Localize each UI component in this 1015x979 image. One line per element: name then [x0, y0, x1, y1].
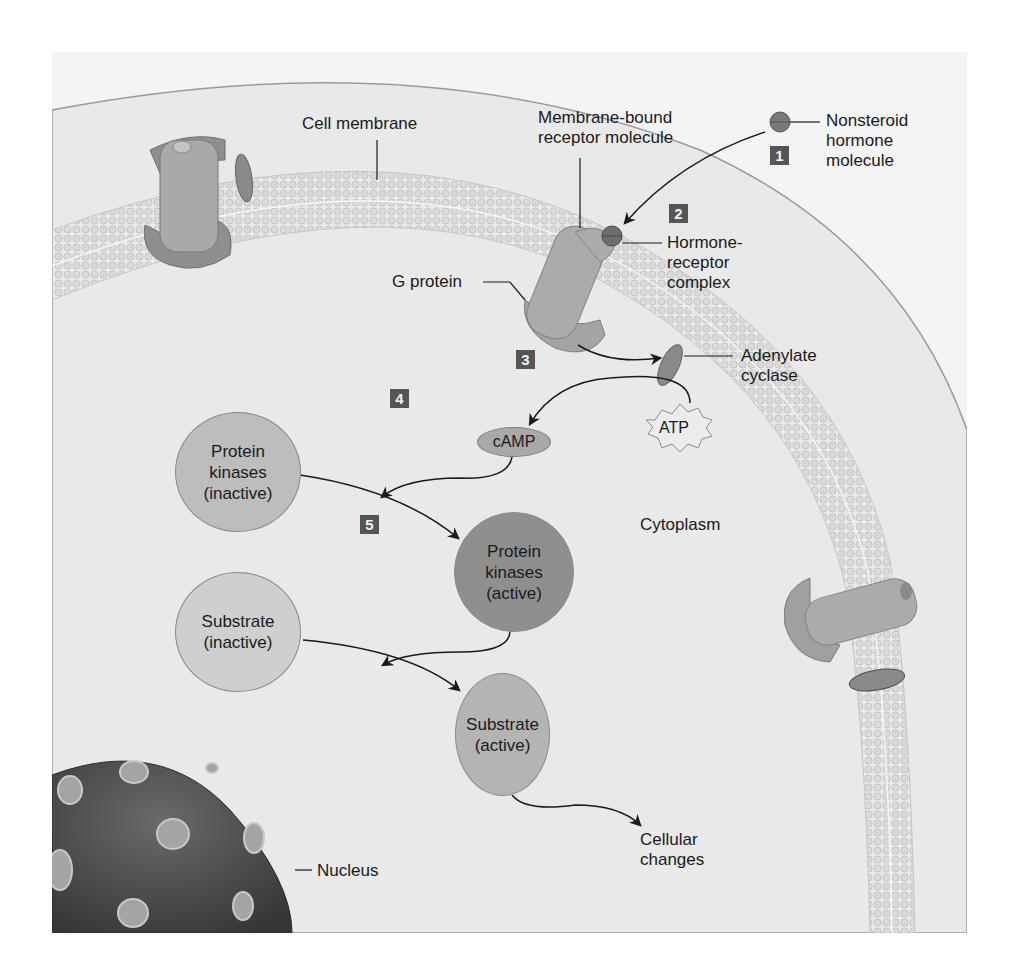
camp-node: cAMP	[477, 427, 551, 457]
node-label: Protein kinases (inactive)	[204, 441, 273, 504]
label-cell-membrane: Cell membrane	[302, 114, 417, 134]
diagram-canvas: Cell membrane Membrane-bound receptor mo…	[0, 0, 1015, 979]
label-nucleus: Nucleus	[317, 861, 378, 881]
node-substrate-inactive: Substrate (inactive)	[175, 572, 301, 692]
label-membrane-bound-receptor: Membrane-bound receptor molecule	[538, 108, 673, 148]
step-badge-5: 5	[360, 515, 379, 534]
node-protein-kinases-active: Protein kinases (active)	[454, 512, 574, 632]
camp-label: cAMP	[493, 433, 536, 451]
label-hormone-receptor-complex: Hormone- receptor complex	[667, 233, 743, 293]
step-badge-1: 1	[770, 146, 789, 165]
node-substrate-active: Substrate (active)	[455, 673, 550, 796]
label-atp: ATP	[659, 418, 689, 438]
node-label: Substrate (inactive)	[202, 611, 275, 653]
label-cellular-changes: Cellular changes	[640, 830, 704, 870]
label-cytoplasm: Cytoplasm	[640, 515, 720, 535]
label-adenylate-cyclase: Adenylate cyclase	[741, 346, 817, 386]
label-nonsteroid-hormone: Nonsteroid hormone molecule	[826, 111, 908, 171]
step-badge-4: 4	[390, 389, 409, 408]
label-g-protein: G protein	[392, 272, 462, 292]
node-protein-kinases-inactive: Protein kinases (inactive)	[175, 412, 301, 532]
node-label: Substrate (active)	[466, 714, 539, 756]
step-badge-3: 3	[516, 350, 535, 369]
step-badge-2: 2	[669, 204, 688, 223]
node-label: Protein kinases (active)	[485, 541, 543, 604]
